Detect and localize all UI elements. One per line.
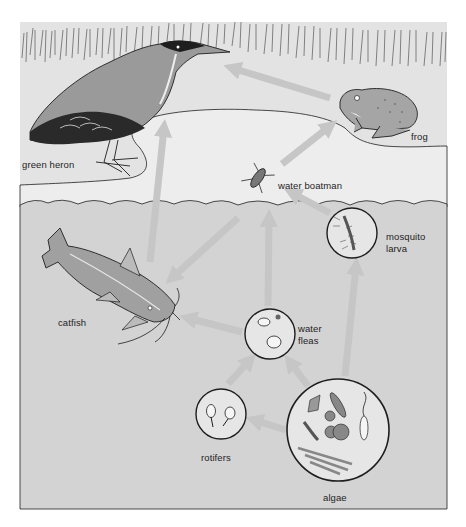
label-mosquito-larva-line2: larva [386,243,407,254]
algae-inset [287,379,389,481]
water-fleas-inset [245,309,295,359]
rotifers-inset [196,389,246,439]
pond-food-web-diagram: green heron frog water boatman mosquito … [0,0,466,527]
arrow-fleas-to-boatman [268,218,269,306]
label-catfish: catfish [58,317,86,328]
label-algae: algae [323,492,347,503]
label-green-heron: green heron [22,159,74,170]
label-water-fleas-line1: water [298,323,322,334]
label-mosquito-larva-line1: mosquito [386,231,425,242]
label-water-boatman: water boatman [278,180,342,191]
label-water-fleas-line2: fleas [298,335,319,346]
label-frog: frog [411,131,428,142]
label-rotifers: rotifers [201,452,231,463]
mosquito-larva-inset [327,208,377,258]
water-region [20,200,447,509]
